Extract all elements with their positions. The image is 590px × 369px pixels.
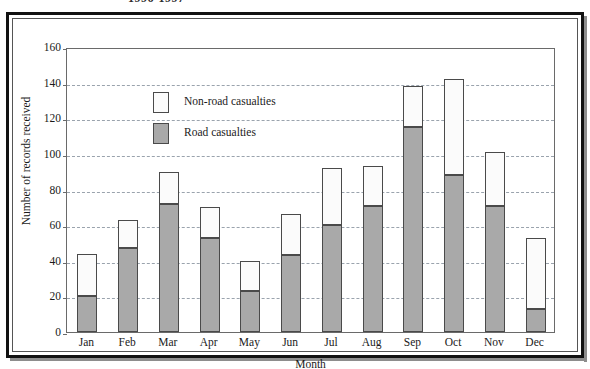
y-tick-label: 120 bbox=[27, 113, 61, 125]
y-tick-label: 80 bbox=[27, 185, 61, 197]
gridline bbox=[67, 192, 554, 193]
y-tick-mark bbox=[63, 334, 67, 335]
legend-swatch-road-icon bbox=[153, 123, 169, 144]
bar-segment-road[interactable] bbox=[363, 206, 383, 332]
bar-group[interactable] bbox=[526, 47, 546, 332]
top-caption: 1996-1997 bbox=[128, 0, 268, 5]
bar-group[interactable] bbox=[118, 47, 138, 332]
gridline bbox=[67, 227, 554, 228]
y-tick-mark bbox=[63, 120, 67, 121]
bar-segment-non-road[interactable] bbox=[403, 86, 423, 127]
y-tick-mark bbox=[63, 49, 67, 50]
bar-segment-non-road[interactable] bbox=[77, 254, 97, 297]
gridline bbox=[67, 263, 554, 264]
y-tick-label: 20 bbox=[27, 291, 61, 303]
legend-item-road: Road casualties bbox=[153, 121, 343, 152]
bar-segment-non-road[interactable] bbox=[444, 79, 464, 175]
bar-segment-non-road[interactable] bbox=[118, 220, 138, 249]
bar-segment-road[interactable] bbox=[526, 309, 546, 332]
y-tick-label: 40 bbox=[27, 256, 61, 268]
bar-group[interactable] bbox=[485, 47, 505, 332]
bar-segment-road[interactable] bbox=[118, 248, 138, 332]
gridline bbox=[67, 298, 554, 299]
bar-segment-non-road[interactable] bbox=[281, 214, 301, 255]
y-tick-label: 160 bbox=[27, 42, 61, 54]
bar-segment-road[interactable] bbox=[444, 175, 464, 332]
y-tick-mark bbox=[63, 192, 67, 193]
bar-group[interactable] bbox=[444, 47, 464, 332]
bar-segment-road[interactable] bbox=[240, 291, 260, 332]
bar-group[interactable] bbox=[363, 47, 383, 332]
bar-segment-road[interactable] bbox=[403, 127, 423, 332]
plot-area: Non-road casualties Road casualties bbox=[66, 48, 555, 333]
gridline bbox=[67, 85, 554, 86]
bar-segment-road[interactable] bbox=[485, 206, 505, 332]
bar-segment-road[interactable] bbox=[281, 255, 301, 332]
bar-group[interactable] bbox=[77, 47, 97, 332]
legend: Non-road casualties Road casualties bbox=[153, 90, 343, 152]
y-tick-label: 60 bbox=[27, 220, 61, 232]
figure-frame: 020406080100120140160 Number of records … bbox=[6, 12, 584, 358]
bar-segment-non-road[interactable] bbox=[363, 166, 383, 205]
bar-segment-non-road[interactable] bbox=[485, 152, 505, 205]
y-tick-label: 0 bbox=[27, 327, 61, 339]
bar-segment-non-road[interactable] bbox=[200, 207, 220, 237]
y-tick-mark bbox=[63, 263, 67, 264]
x-tick-label: Dec bbox=[510, 336, 560, 348]
y-tick-mark bbox=[63, 156, 67, 157]
x-axis-title: Month bbox=[66, 358, 555, 369]
gridline bbox=[67, 156, 554, 157]
y-tick-mark bbox=[63, 298, 67, 299]
bar-segment-road[interactable] bbox=[322, 225, 342, 332]
bar-segment-non-road[interactable] bbox=[322, 168, 342, 225]
bar-segment-non-road[interactable] bbox=[159, 172, 179, 204]
legend-label-road: Road casualties bbox=[184, 126, 256, 138]
bar-segment-road[interactable] bbox=[77, 296, 97, 332]
y-axis-title: Number of records received bbox=[20, 56, 32, 266]
legend-swatch-non-road-icon bbox=[153, 92, 169, 113]
bar-segment-non-road[interactable] bbox=[526, 238, 546, 309]
bar-segment-road[interactable] bbox=[159, 204, 179, 332]
bar-segment-non-road[interactable] bbox=[240, 261, 260, 291]
y-tick-label: 140 bbox=[27, 78, 61, 90]
y-tick-mark bbox=[63, 227, 67, 228]
bar-segment-road[interactable] bbox=[200, 238, 220, 332]
legend-item-non-road: Non-road casualties bbox=[153, 90, 343, 121]
bar-group[interactable] bbox=[403, 47, 423, 332]
frame-drop-shadow-right bbox=[584, 16, 587, 362]
y-tick-label: 100 bbox=[27, 149, 61, 161]
y-tick-mark bbox=[63, 85, 67, 86]
x-axis: JanFebMarAprMayJunJulAugSepOctNovDec bbox=[66, 336, 555, 354]
legend-label-non-road: Non-road casualties bbox=[184, 95, 276, 107]
